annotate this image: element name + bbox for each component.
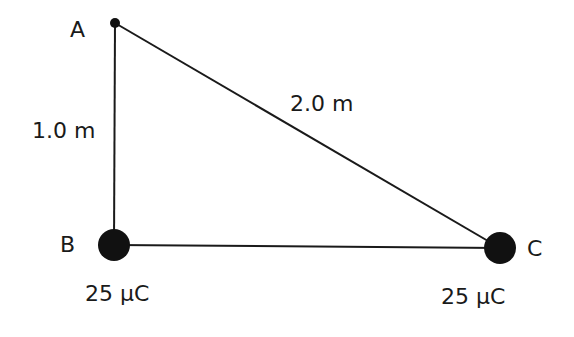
side-ab	[114, 23, 115, 245]
side-ac	[115, 23, 500, 248]
label-b: B	[60, 234, 75, 256]
label-a: A	[70, 19, 85, 41]
label-c: C	[527, 238, 542, 260]
charge-c-value: 25 μC	[441, 286, 505, 308]
side-ab-length: 1.0 m	[32, 120, 95, 142]
charge-b	[98, 229, 130, 261]
side-ac-length: 2.0 m	[290, 93, 353, 115]
charge-b-value: 25 μC	[85, 283, 149, 305]
side-bc	[114, 245, 500, 248]
point-a-dot	[110, 18, 120, 28]
charge-c	[484, 232, 516, 264]
